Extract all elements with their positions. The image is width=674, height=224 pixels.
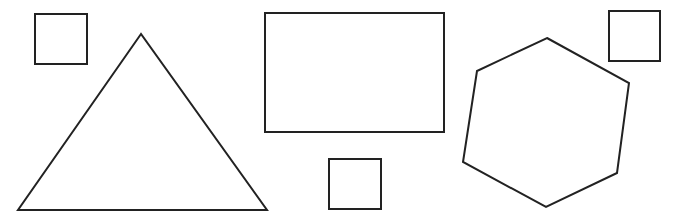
triangle [18, 34, 267, 210]
square-bottom-middle [329, 159, 381, 209]
shapes-canvas [0, 0, 674, 224]
square-top-left [35, 14, 87, 64]
hexagon [463, 38, 629, 207]
square-top-right [609, 11, 660, 61]
rectangle [265, 13, 444, 132]
